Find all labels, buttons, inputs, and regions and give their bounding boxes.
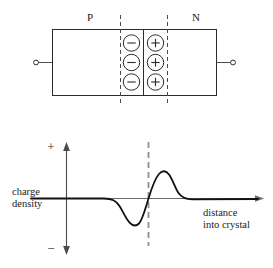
positive-ion-2 [147, 54, 163, 70]
junction-diagram-group: P N [34, 11, 236, 104]
y-axis-arrow-down [63, 246, 70, 255]
charge-density-chart: + − charge density distance into crystal [12, 139, 264, 256]
axis-positive-label: + [47, 139, 54, 154]
terminal-dot-right [231, 60, 236, 65]
region-label-n: N [192, 11, 200, 23]
lead-terminal-right [217, 60, 236, 65]
positive-ion-3 [147, 74, 163, 90]
negative-ion-1 [123, 35, 139, 51]
figure-root: P N [0, 0, 273, 268]
y-axis-arrow-up [63, 142, 70, 151]
x-axis-label-line2: into crystal [203, 219, 250, 230]
negative-ion-2 [123, 54, 139, 70]
lead-terminal-left [34, 60, 53, 65]
y-axis-label-line2: density [12, 198, 43, 209]
terminal-dot-left [34, 60, 39, 65]
negative-ion-3 [123, 74, 139, 90]
axis-negative-label: − [47, 241, 54, 256]
x-axis-label-line1: distance [203, 207, 238, 218]
negative-ion-column [123, 35, 139, 90]
positive-ion-1 [147, 35, 163, 51]
pn-junction-figure: P N [0, 0, 273, 268]
y-axis-label-line1: charge [12, 186, 40, 197]
positive-ion-column [147, 35, 163, 90]
region-label-p: P [87, 11, 93, 23]
